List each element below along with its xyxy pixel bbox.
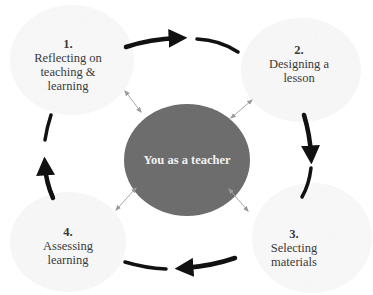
cycle-arrow-4-to-1-tail (45, 115, 51, 140)
stage-4-number: 4. (43, 225, 93, 239)
center-label: You as a teacher (142, 153, 232, 168)
stage-2-line-2: lesson (269, 71, 329, 85)
connector-center-to-2 (231, 100, 252, 118)
cycle-arrow-3-to-4-head (184, 258, 235, 268)
stage-1-number: 1. (34, 37, 102, 51)
stage-4-label: 4. Assessing learning (43, 225, 93, 267)
stage-1-line-3: learning (34, 79, 102, 93)
stage-3-number: 3. (271, 227, 318, 241)
stage-4-line-2: learning (43, 253, 93, 267)
stage-1-label: 1. Reflecting on teaching & learning (34, 37, 102, 93)
connector-center-to-4 (116, 188, 136, 210)
stage-4-line-1: Assessing (43, 239, 93, 253)
cycle-arrow-1-to-2-head (126, 38, 178, 47)
connector-center-to-1 (125, 91, 141, 112)
cycle-arrow-1-to-2-tail (197, 39, 238, 52)
stage-1-line-2: teaching & (34, 65, 102, 79)
cycle-arrow-3-to-4-tail (125, 262, 166, 269)
stage-1-line-1: Reflecting on (34, 51, 102, 65)
stage-3-label: 3. Selecting materials (271, 227, 318, 269)
connector-center-to-3 (229, 189, 248, 211)
stage-2-label: 2. Designing a lesson (269, 43, 329, 85)
stage-3-line-1: Selecting (271, 241, 318, 255)
stage-3-line-2: materials (271, 255, 318, 269)
cycle-arrow-4-to-1-head (45, 166, 53, 198)
stage-2-number: 2. (269, 43, 329, 57)
stage-2-line-1: Designing a (269, 57, 329, 71)
